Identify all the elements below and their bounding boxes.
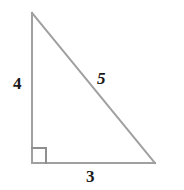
vertical-leg-label: 4 (13, 75, 22, 92)
triangle-figure: 4 5 3 (0, 0, 184, 190)
hypotenuse-line (32, 13, 155, 163)
horizontal-leg-label: 3 (86, 168, 95, 185)
hypotenuse-label: 5 (97, 70, 106, 87)
right-angle-marker-icon (32, 148, 46, 163)
triangle-drawing (0, 0, 184, 190)
